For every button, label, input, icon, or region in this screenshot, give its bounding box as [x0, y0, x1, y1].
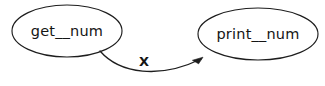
diagram-canvas: get__num print__num X	[0, 0, 325, 86]
edge-get-num-to-print-num[interactable]	[100, 51, 201, 71]
edge-label-x: X	[139, 54, 149, 69]
call-graph-diagram: get__num print__num X	[0, 0, 325, 86]
node-get-num-label: get__num	[31, 23, 103, 39]
node-print-num-label: print__num	[216, 26, 299, 42]
